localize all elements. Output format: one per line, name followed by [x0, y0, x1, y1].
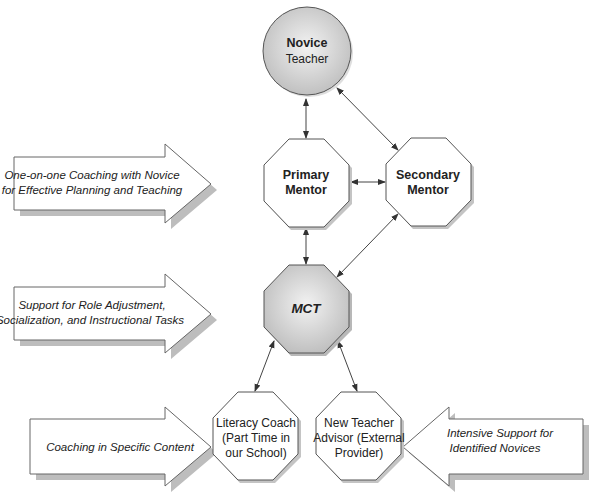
node-advisor-line2: Advisor (External [313, 431, 404, 445]
edge-mct-advisor [338, 341, 357, 391]
label-content-line1: Coaching in Specific Content [46, 441, 194, 453]
node-new-teacher-advisor: New Teacher Advisor (External Provider) [313, 392, 404, 483]
node-literacy-line2: (Part Time in [222, 431, 290, 445]
node-advisor-line1: New Teacher [324, 416, 394, 430]
edge-novice-secondary [337, 88, 398, 150]
node-secondary-mentor: Secondary Mentor [386, 138, 474, 229]
node-primary-line2: Mentor [285, 183, 327, 197]
node-literacy-coach: Literacy Coach (Part Time in our School) [213, 392, 301, 483]
label-role-support-line2: Socialization, and Instructional Tasks [0, 314, 184, 326]
edge-secondary-mct [337, 214, 398, 277]
edge-mct-literacy [255, 341, 274, 391]
node-primary-line1: Primary [283, 168, 330, 182]
node-primary-mentor: Primary Mentor [264, 139, 352, 230]
node-literacy-line1: Literacy Coach [216, 416, 296, 430]
label-arrow-intensive: Intensive Support for Identified Novices [403, 407, 589, 492]
node-mct: MCT [264, 265, 352, 356]
label-one-on-one-line2: for Effective Planning and Teaching [2, 184, 183, 196]
node-literacy-line3: our School) [225, 446, 286, 460]
node-novice-teacher: Novice Teacher [263, 7, 353, 97]
node-novice-line1: Novice [287, 36, 328, 50]
label-intensive-line1: Intensive Support for [447, 427, 554, 439]
node-mct-label: MCT [291, 301, 322, 316]
node-advisor-line3: Provider) [335, 446, 384, 460]
node-secondary-line1: Secondary [396, 168, 460, 182]
label-one-on-one-line1: One-on-one Coaching with Novice [4, 169, 179, 181]
node-secondary-line2: Mentor [407, 183, 449, 197]
label-arrow-content: Coaching in Specific Content [30, 407, 217, 492]
label-intensive-line2: Identified Novices [450, 442, 541, 454]
label-role-support-line1: Support for Role Adjustment, [18, 299, 165, 311]
label-arrow-one-on-one: One-on-one Coaching with Novice for Effe… [2, 144, 217, 229]
mentoring-diagram: One-on-one Coaching with Novice for Effe… [0, 0, 596, 492]
node-novice-line2: Teacher [286, 52, 329, 66]
label-arrow-role-support: Support for Role Adjustment, Socializati… [0, 274, 217, 359]
